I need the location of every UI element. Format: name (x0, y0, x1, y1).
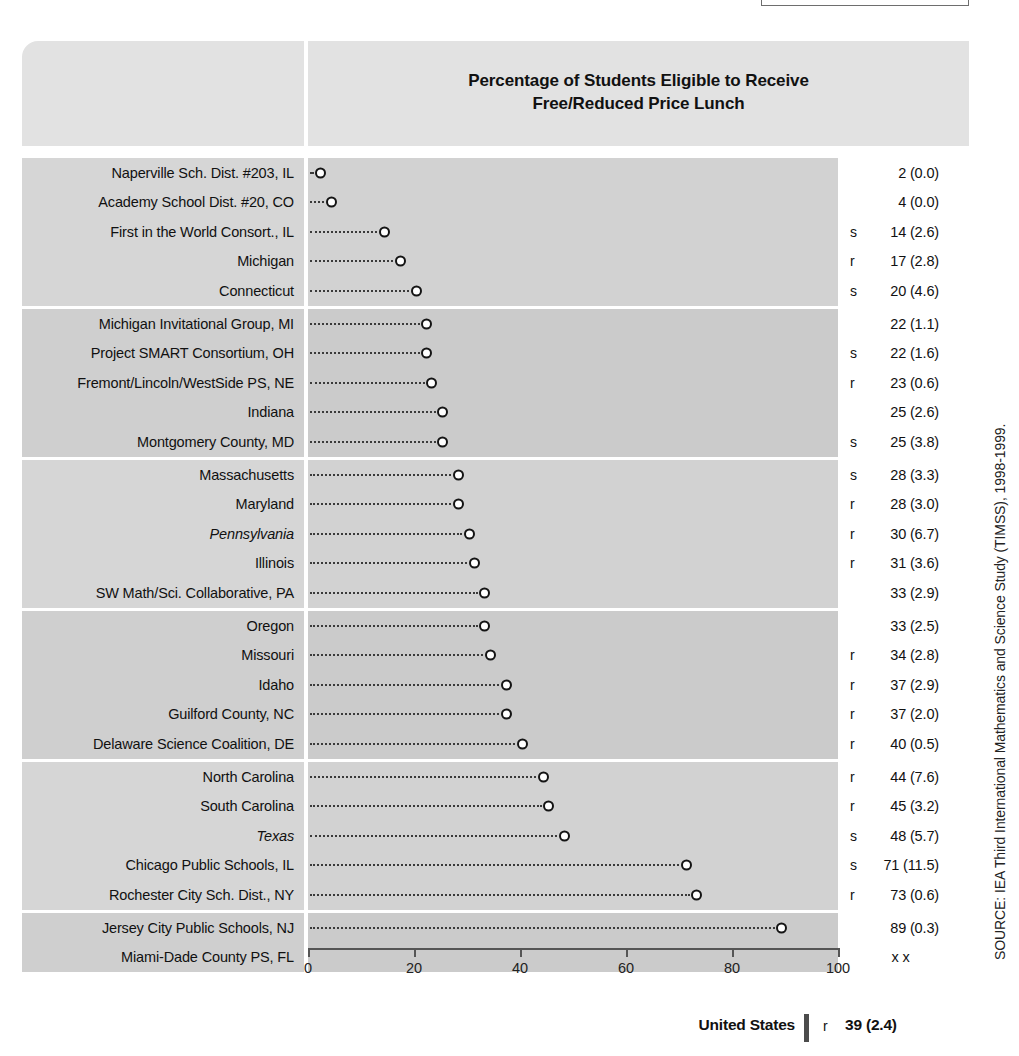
plot-row[interactable] (308, 670, 838, 700)
plot-row[interactable] (308, 519, 838, 549)
data-point-marker[interactable] (437, 407, 448, 418)
data-point-marker[interactable] (469, 558, 480, 569)
plot-row[interactable] (308, 398, 838, 428)
table-row[interactable]: Missouri (22, 641, 304, 671)
data-point-marker[interactable] (421, 318, 432, 329)
data-point-marker[interactable] (538, 771, 549, 782)
table-row[interactable]: North Carolina (22, 762, 304, 792)
table-row[interactable]: Michigan (22, 247, 304, 277)
plot-row[interactable] (308, 309, 838, 339)
table-row[interactable]: Chicago Public Schools, IL (22, 851, 304, 881)
plot-row[interactable] (308, 460, 838, 490)
value-row[interactable]: s28 (3.3) (842, 460, 969, 490)
table-row[interactable]: Illinois (22, 549, 304, 579)
data-point-marker[interactable] (379, 226, 390, 237)
table-row[interactable]: Pennsylvania (22, 519, 304, 549)
value-row[interactable]: r44 (7.6) (842, 762, 969, 792)
data-point-marker[interactable] (501, 709, 512, 720)
value-row[interactable]: 4 (0.0) (842, 188, 969, 218)
value-row[interactable]: 33 (2.5) (842, 611, 969, 641)
table-row[interactable]: Miami-Dade County PS, FL (22, 943, 304, 973)
value-row[interactable]: s71 (11.5) (842, 851, 969, 881)
data-point-marker[interactable] (453, 469, 464, 480)
plot-row[interactable] (308, 611, 838, 641)
value-row[interactable]: r37 (2.0) (842, 700, 969, 730)
value-row[interactable]: 89 (0.3) (842, 913, 969, 943)
data-point-marker[interactable] (479, 620, 490, 631)
value-row[interactable]: r45 (3.2) (842, 792, 969, 822)
plot-row[interactable] (308, 247, 838, 277)
data-point-marker[interactable] (453, 499, 464, 510)
value-row[interactable]: s48 (5.7) (842, 821, 969, 851)
table-row[interactable]: Academy School Dist. #20, CO (22, 188, 304, 218)
value-row[interactable]: r31 (3.6) (842, 549, 969, 579)
data-point-marker[interactable] (395, 256, 406, 267)
value-row[interactable]: 22 (1.1) (842, 309, 969, 339)
table-row[interactable]: South Carolina (22, 792, 304, 822)
table-row[interactable]: Massachusetts (22, 460, 304, 490)
table-row[interactable]: Delaware Science Coalition, DE (22, 729, 304, 759)
value-row[interactable]: s25 (3.8) (842, 427, 969, 457)
plot-row[interactable] (308, 641, 838, 671)
value-row[interactable]: r37 (2.9) (842, 670, 969, 700)
table-row[interactable]: Naperville Sch. Dist. #203, IL (22, 158, 304, 188)
data-point-marker[interactable] (485, 650, 496, 661)
plot-row[interactable] (308, 851, 838, 881)
table-row[interactable]: Oregon (22, 611, 304, 641)
value-row[interactable]: r40 (0.5) (842, 729, 969, 759)
table-row[interactable]: Connecticut (22, 276, 304, 306)
value-row[interactable]: r23 (0.6) (842, 368, 969, 398)
value-row[interactable]: r73 (0.6) (842, 880, 969, 910)
plot-row[interactable] (308, 339, 838, 369)
plot-row[interactable] (308, 792, 838, 822)
table-row[interactable]: SW Math/Sci. Collaborative, PA (22, 578, 304, 608)
table-row[interactable]: Rochester City Sch. Dist., NY (22, 880, 304, 910)
plot-row[interactable] (308, 578, 838, 608)
value-row[interactable]: r30 (6.7) (842, 519, 969, 549)
plot-row[interactable] (308, 821, 838, 851)
data-point-marker[interactable] (479, 587, 490, 598)
plot-row[interactable] (308, 276, 838, 306)
value-row[interactable]: s14 (2.6) (842, 217, 969, 247)
plot-row[interactable] (308, 729, 838, 759)
data-point-marker[interactable] (691, 889, 702, 900)
plot-row[interactable] (308, 490, 838, 520)
value-row[interactable]: s20 (4.6) (842, 276, 969, 306)
data-point-marker[interactable] (681, 860, 692, 871)
plot-row[interactable] (308, 158, 838, 188)
data-point-marker[interactable] (464, 528, 475, 539)
table-row[interactable]: Jersey City Public Schools, NJ (22, 913, 304, 943)
plot-row[interactable] (308, 188, 838, 218)
table-row[interactable]: Michigan Invitational Group, MI (22, 309, 304, 339)
table-row[interactable]: Montgomery County, MD (22, 427, 304, 457)
table-row[interactable]: Maryland (22, 490, 304, 520)
data-point-marker[interactable] (421, 348, 432, 359)
data-point-marker[interactable] (411, 285, 422, 296)
plot-row[interactable] (308, 427, 838, 457)
value-row[interactable]: 25 (2.6) (842, 398, 969, 428)
table-row[interactable]: Fremont/Lincoln/WestSide PS, NE (22, 368, 304, 398)
table-row[interactable]: Project SMART Consortium, OH (22, 339, 304, 369)
value-row[interactable]: r34 (2.8) (842, 641, 969, 671)
table-row[interactable]: First in the World Consort., IL (22, 217, 304, 247)
table-row[interactable]: Idaho (22, 670, 304, 700)
data-point-marker[interactable] (315, 167, 326, 178)
value-row[interactable]: 33 (2.9) (842, 578, 969, 608)
plot-row[interactable] (308, 368, 838, 398)
data-point-marker[interactable] (559, 830, 570, 841)
value-row[interactable]: s22 (1.6) (842, 339, 969, 369)
plot-row[interactable] (308, 549, 838, 579)
data-point-marker[interactable] (517, 738, 528, 749)
data-point-marker[interactable] (776, 922, 787, 933)
plot-row[interactable] (308, 217, 838, 247)
table-row[interactable]: Guilford County, NC (22, 700, 304, 730)
table-row[interactable]: Texas (22, 821, 304, 851)
value-row[interactable]: r28 (3.0) (842, 490, 969, 520)
value-row[interactable]: x x (842, 943, 969, 973)
data-point-marker[interactable] (543, 801, 554, 812)
plot-row[interactable] (308, 943, 838, 973)
value-row[interactable]: r17 (2.8) (842, 247, 969, 277)
plot-row[interactable] (308, 762, 838, 792)
data-point-marker[interactable] (326, 197, 337, 208)
plot-row[interactable] (308, 880, 838, 910)
